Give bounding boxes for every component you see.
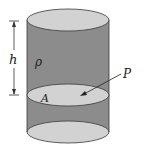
cylinder-bottom-ellipse <box>27 121 109 143</box>
cylinder-top-ellipse <box>27 9 109 31</box>
cylinder-diagram: h ρ A P <box>0 0 144 149</box>
pressure-label: P <box>122 67 132 81</box>
density-label: ρ <box>34 55 42 69</box>
arrow-up-icon <box>12 21 16 27</box>
height-label: h <box>9 52 17 67</box>
arrow-down-icon <box>12 89 16 95</box>
cylinder-body <box>27 20 109 132</box>
area-label: A <box>40 92 49 105</box>
